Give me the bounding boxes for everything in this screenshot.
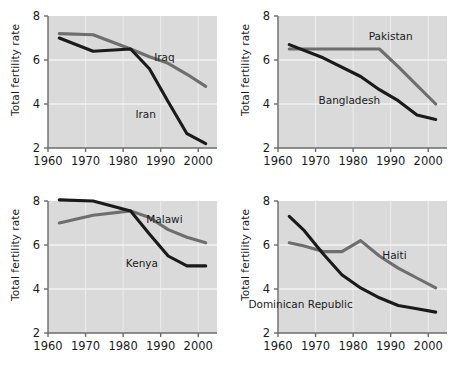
x-tick-label: 2000 <box>184 154 213 168</box>
x-tick-label: 1990 <box>146 154 175 168</box>
y-tick-label: 8 <box>33 9 40 23</box>
x-tick-label: 1960 <box>263 339 292 353</box>
x-tick-label: 1990 <box>146 339 175 353</box>
x-tick-label: 1970 <box>71 339 100 353</box>
series-label-haiti: Haiti <box>382 249 406 261</box>
plot-area: 864219601970198019902000PakistanBanglade… <box>230 0 460 185</box>
series-label-kenya: Kenya <box>126 257 158 269</box>
series-label-malawi: Malawi <box>146 213 182 225</box>
plot-area: 864219601970198019902000HaitiDominican R… <box>230 185 460 370</box>
plot-area: 864219601970198019902000MalawiKenya <box>0 185 230 370</box>
chart-panel-top-right: Total fertility rate86421960197019801990… <box>230 0 460 185</box>
x-tick-label: 2000 <box>414 154 443 168</box>
y-tick-label: 6 <box>263 53 270 67</box>
y-tick-label: 4 <box>263 282 270 296</box>
x-tick-label: 1980 <box>338 339 367 353</box>
x-tick-label: 1960 <box>33 339 62 353</box>
chart-panel-bottom-right: Total fertility rate86421960197019801990… <box>230 185 460 370</box>
x-tick-label: 2000 <box>184 339 213 353</box>
series-label-bangladesh: Bangladesh <box>319 94 381 106</box>
x-tick-label: 1960 <box>33 154 62 168</box>
series-label-dominican-republic: Dominican Republic <box>248 298 353 310</box>
chart-panel-top-left: Total fertility rate86421960197019801990… <box>0 0 230 185</box>
y-tick-label: 6 <box>33 53 40 67</box>
x-tick-label: 1960 <box>263 154 292 168</box>
fertility-rate-small-multiples-figure: Total fertility rate86421960197019801990… <box>0 0 461 371</box>
chart-panel-bottom-left: Total fertility rate86421960197019801990… <box>0 185 230 370</box>
series-label-iraq: Iraq <box>154 51 175 63</box>
y-tick-label: 4 <box>33 282 40 296</box>
plot-background <box>48 16 217 148</box>
x-tick-label: 2000 <box>414 339 443 353</box>
y-tick-label: 8 <box>263 9 270 23</box>
plot-area: 864219601970198019902000IraqIran <box>0 0 230 185</box>
x-tick-label: 1980 <box>338 154 367 168</box>
y-tick-label: 6 <box>33 238 40 252</box>
series-label-iran: Iran <box>135 108 156 120</box>
x-tick-label: 1970 <box>71 154 100 168</box>
plot-background <box>278 16 447 148</box>
y-tick-label: 6 <box>263 238 270 252</box>
plot-background <box>278 201 447 333</box>
y-tick-label: 8 <box>33 194 40 208</box>
y-tick-label: 4 <box>33 97 40 111</box>
x-tick-label: 1980 <box>108 339 137 353</box>
x-tick-label: 1970 <box>301 339 330 353</box>
series-label-pakistan: Pakistan <box>369 30 413 42</box>
x-tick-label: 1990 <box>376 339 405 353</box>
y-tick-label: 4 <box>263 97 270 111</box>
x-tick-label: 1980 <box>108 154 137 168</box>
x-tick-label: 1990 <box>376 154 405 168</box>
y-tick-label: 8 <box>263 194 270 208</box>
x-tick-label: 1970 <box>301 154 330 168</box>
